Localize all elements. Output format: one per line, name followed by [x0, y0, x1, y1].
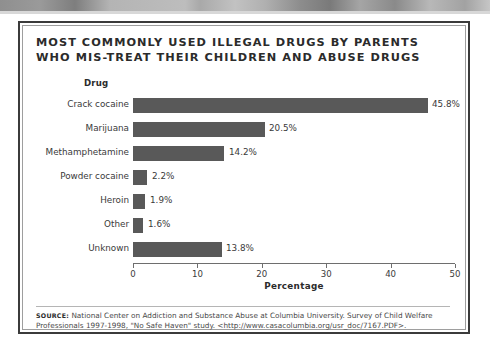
x-tick-label-40: 40: [385, 269, 396, 279]
bar-rows: Crack cocaine 45.8% Marijuana 20.5% Meth…: [20, 95, 468, 263]
x-tick-label-20: 20: [256, 269, 267, 279]
bar-category-label: Marijuana: [86, 123, 129, 133]
x-tick-10: [197, 264, 198, 268]
bar-category-label: Methamphetamine: [46, 147, 129, 157]
scan-artifact-strip: [0, 0, 490, 14]
x-tick-20: [262, 264, 263, 268]
bar-powder-cocaine: [133, 170, 147, 185]
bar-row-marijuana: Marijuana 20.5%: [20, 119, 468, 143]
x-tick-label-50: 50: [450, 269, 461, 279]
x-axis-line: [133, 263, 455, 264]
bar-value-methamphetamine: 14.2%: [229, 147, 257, 157]
bar-heroin: [133, 194, 145, 209]
bar-unknown: [133, 242, 222, 257]
bar-row-unknown: Unknown 13.8%: [20, 239, 468, 263]
source-divider: [36, 306, 450, 307]
bar-row-powder-cocaine: Powder cocaine 2.2%: [20, 167, 468, 191]
bar-row-crack-cocaine: Crack cocaine 45.8%: [20, 95, 468, 119]
bar-value-unknown: 13.8%: [226, 243, 254, 253]
bar-category-label: Unknown: [88, 243, 129, 253]
bar-value-marijuana: 20.5%: [269, 123, 297, 133]
bar-row-other: Other 1.6%: [20, 215, 468, 239]
bar-value-crack-cocaine: 45.8%: [432, 99, 460, 109]
bar-methamphetamine: [133, 146, 224, 161]
bar-marijuana: [133, 122, 265, 137]
bar-row-heroin: Heroin 1.9%: [20, 191, 468, 215]
x-tick-label-10: 10: [192, 269, 203, 279]
bar-other: [133, 218, 143, 233]
figure-frame: MOST COMMONLY USED ILLEGAL DRUGS BY PARE…: [18, 21, 470, 334]
x-tick-label-0: 0: [130, 269, 135, 279]
source-note: SOURCE: National Center on Addiction and…: [36, 311, 452, 331]
plot-area: Drug Crack cocaine 45.8% Marijuana 20.5%…: [20, 78, 468, 293]
bar-value-heroin: 1.9%: [150, 195, 172, 205]
x-tick-50: [455, 264, 456, 268]
x-tick-label-30: 30: [321, 269, 332, 279]
chart-title: MOST COMMONLY USED ILLEGAL DRUGS BY PARE…: [36, 35, 448, 65]
bar-category-label: Powder cocaine: [60, 171, 129, 181]
x-tick-40: [391, 264, 392, 268]
bar-value-powder-cocaine: 2.2%: [152, 171, 174, 181]
source-label: SOURCE:: [36, 312, 69, 319]
x-tick-30: [326, 264, 327, 268]
bar-row-methamphetamine: Methamphetamine 14.2%: [20, 143, 468, 167]
x-tick-0: [133, 264, 134, 268]
x-axis-title: Percentage: [133, 281, 455, 291]
bar-category-label: Other: [104, 219, 129, 229]
category-axis-title: Drug: [84, 78, 108, 88]
bar-crack-cocaine: [133, 98, 428, 113]
bar-value-other: 1.6%: [148, 219, 170, 229]
source-text: National Center on Addiction and Substan…: [36, 311, 433, 330]
bar-category-label: Crack cocaine: [67, 99, 129, 109]
bar-category-label: Heroin: [100, 195, 129, 205]
